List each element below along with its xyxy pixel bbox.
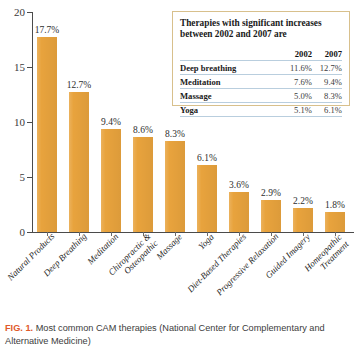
y-tick-label: 15: [14, 61, 25, 73]
bar: [133, 137, 153, 232]
bar: [325, 212, 345, 232]
inset-cell-2007: 6.1%: [312, 103, 342, 117]
inset-data-table: 2002 2007 Deep breathing11.6%12.7%Medita…: [180, 49, 342, 117]
inset-table-row: Massage5.0%8.3%: [180, 89, 342, 103]
bar: [37, 37, 57, 232]
inset-table-head: 2002 2007: [180, 49, 342, 61]
x-category-label: Diet-Based Therapies: [186, 232, 248, 294]
inset-header-row: 2002 2007: [180, 49, 342, 61]
inset-cell-2007: 12.7%: [312, 61, 342, 75]
y-tick-mark: [27, 177, 32, 178]
x-category-label-line: Diet-Based Therapies: [186, 232, 248, 294]
bar: [101, 129, 121, 232]
inset-table-row: Meditation7.6%9.4%: [180, 75, 342, 89]
inset-header-2007: 2007: [312, 49, 342, 61]
figure-container: 05101520 17.7%12.7%9.4%8.6%8.3%6.1%3.6%2…: [0, 0, 360, 348]
bar-slot: 9.4%: [101, 12, 121, 232]
inset-header-2002: 2002: [278, 49, 312, 61]
x-category-label-line: Massage: [155, 232, 184, 261]
inset-cell-2002: 7.6%: [278, 75, 312, 89]
inset-cell-2002: 5.1%: [278, 103, 312, 117]
bar: [197, 165, 217, 232]
inset-table-row: Deep breathing11.6%12.7%: [180, 61, 342, 75]
y-tick-mark: [27, 12, 32, 13]
bar-value-label: 8.6%: [133, 125, 153, 135]
inset-table-row: Yoga5.1%6.1%: [180, 103, 342, 117]
inset-cell-therapy: Yoga: [180, 103, 278, 117]
x-category-label: Yoga: [197, 232, 216, 251]
inset-table-panel: Therapies with significant increases bet…: [172, 11, 350, 106]
inset-cell-2002: 11.6%: [278, 61, 312, 75]
y-tick-label: 10: [14, 116, 25, 128]
y-tick-label: 20: [14, 6, 25, 18]
inset-title: Therapies with significant increases bet…: [180, 18, 342, 40]
x-category-label-line: Yoga: [197, 232, 216, 251]
bar: [261, 200, 281, 232]
figure-caption-text: Most common CAM therapies (National Cent…: [5, 323, 325, 346]
bar: [293, 208, 313, 232]
bar-value-label: 2.2%: [293, 196, 313, 206]
bar-slot: 17.7%: [37, 12, 57, 232]
bar-value-label: 3.6%: [229, 180, 249, 190]
figure-caption: FIG. 1. Most common CAM therapies (Natio…: [5, 322, 357, 347]
inset-header-corner: [180, 49, 278, 61]
bar-value-label: 12.7%: [67, 80, 92, 90]
y-tick-label: 5: [20, 171, 26, 183]
bar-value-label: 8.3%: [165, 129, 185, 139]
bar: [69, 92, 89, 232]
y-tick-mark: [27, 232, 32, 233]
bar-value-label: 6.1%: [197, 153, 217, 163]
bar-value-label: 2.9%: [261, 188, 281, 198]
y-tick-label: 0: [20, 226, 26, 238]
inset-cell-therapy: Meditation: [180, 75, 278, 89]
figure-number-label: FIG. 1.: [5, 323, 33, 333]
inset-table-body: Deep breathing11.6%12.7%Meditation7.6%9.…: [180, 61, 342, 117]
bar-value-label: 17.7%: [35, 25, 60, 35]
inset-cell-therapy: Deep breathing: [180, 61, 278, 75]
bar-slot: 8.6%: [133, 12, 153, 232]
x-category-label: Massage: [155, 232, 184, 261]
inset-cell-2007: 9.4%: [312, 75, 342, 89]
inset-cell-2002: 5.0%: [278, 89, 312, 103]
y-tick-mark: [27, 122, 32, 123]
bar: [165, 141, 185, 232]
bar-value-label: 1.8%: [325, 200, 345, 210]
bar-slot: 12.7%: [69, 12, 89, 232]
inset-cell-therapy: Massage: [180, 89, 278, 103]
bar-value-label: 9.4%: [101, 117, 121, 127]
x-axis-category-labels: Natural ProductsDeep BreathingMeditation…: [32, 234, 360, 314]
bar: [229, 192, 249, 232]
inset-cell-2007: 8.3%: [312, 89, 342, 103]
y-tick-mark: [27, 67, 32, 68]
